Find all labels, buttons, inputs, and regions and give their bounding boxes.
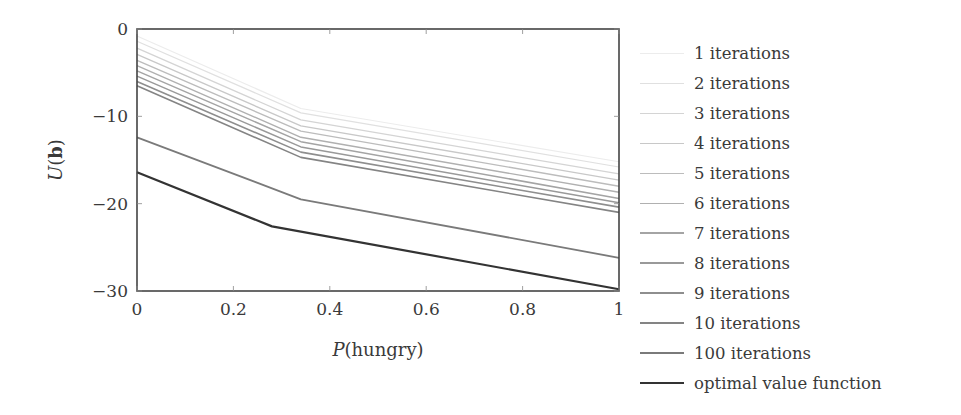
legend-item: 100 iterations	[640, 338, 882, 368]
legend-item: 5 iterations	[640, 158, 882, 188]
legend-swatch	[640, 83, 684, 84]
legend-swatch	[640, 173, 684, 174]
legend-item: 7 iterations	[640, 218, 882, 248]
legend-swatch	[640, 143, 684, 144]
legend-label: 9 iterations	[694, 284, 790, 303]
x-tick-label: 0.8	[509, 299, 536, 319]
legend-item: 3 iterations	[640, 98, 882, 128]
legend-item: 2 iterations	[640, 68, 882, 98]
x-tick-label: 0.4	[316, 299, 343, 319]
legend-label: 7 iterations	[694, 224, 790, 243]
legend-label: optimal value function	[694, 374, 882, 393]
legend-item: optimal value function	[640, 368, 882, 398]
legend-swatch	[640, 262, 684, 264]
plot-lines	[137, 36, 619, 289]
legend-label: 10 iterations	[694, 314, 801, 333]
legend-item: 10 iterations	[640, 308, 882, 338]
y-tick-label: −30	[92, 281, 128, 301]
x-axis-label: P(hungry)	[331, 339, 423, 360]
legend-label: 4 iterations	[694, 134, 790, 153]
legend-swatch	[640, 382, 684, 384]
legend-item: 6 iterations	[640, 188, 882, 218]
series-line-2	[137, 41, 619, 167]
legend-label: 6 iterations	[694, 194, 790, 213]
legend-swatch	[640, 322, 684, 324]
x-tick-label: 1	[614, 299, 625, 319]
legend-label: 5 iterations	[694, 164, 790, 183]
y-tick-label: 0	[117, 19, 128, 39]
legend: 1 iterations2 iterations3 iterations4 it…	[640, 38, 882, 398]
y-axis-label: U(b)	[45, 139, 66, 181]
legend-item: 1 iterations	[640, 38, 882, 68]
legend-label: 3 iterations	[694, 104, 790, 123]
legend-item: 4 iterations	[640, 128, 882, 158]
legend-item: 8 iterations	[640, 248, 882, 278]
y-tick-label: −20	[92, 194, 128, 214]
legend-swatch	[640, 113, 684, 114]
y-tick-label: −10	[92, 106, 128, 126]
legend-item: 9 iterations	[640, 278, 882, 308]
legend-label: 100 iterations	[694, 344, 811, 363]
x-tick-label: 0.6	[413, 299, 440, 319]
legend-label: 1 iterations	[694, 44, 790, 63]
series-line-1	[137, 36, 619, 162]
legend-label: 2 iterations	[694, 74, 790, 93]
x-tick-label: 0	[132, 299, 143, 319]
legend-swatch	[640, 203, 684, 204]
legend-swatch	[640, 352, 684, 354]
legend-swatch	[640, 232, 684, 234]
legend-swatch	[640, 292, 684, 294]
x-tick-label: 0.2	[220, 299, 247, 319]
legend-swatch	[640, 53, 684, 54]
legend-label: 8 iterations	[694, 254, 790, 273]
